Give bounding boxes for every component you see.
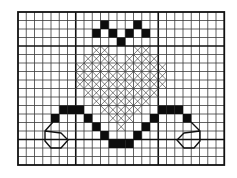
solid-stitch-cell <box>59 106 67 115</box>
solid-stitch-cell <box>150 114 158 123</box>
solid-stitch-cell <box>92 123 100 132</box>
solid-stitch-cell <box>76 106 84 115</box>
solid-stitch-cell <box>117 38 125 47</box>
solid-stitch-cell <box>175 106 183 115</box>
solid-stitch-cell <box>101 131 109 140</box>
solid-stitch-cell <box>134 21 142 30</box>
solid-stitch-cell <box>158 106 166 115</box>
solid-stitch-cell <box>109 29 117 38</box>
solid-stitch-cell <box>125 29 133 38</box>
solid-stitch-cell <box>68 106 76 115</box>
cross-stitch-chart <box>0 0 237 178</box>
solid-stitch-cell <box>84 114 92 123</box>
solid-stitch-cell <box>125 140 133 149</box>
solid-stitch-cell <box>142 123 150 132</box>
solid-stitch-cell <box>51 114 59 123</box>
background <box>0 0 237 178</box>
solid-stitch-cell <box>167 106 175 115</box>
solid-stitch-cell <box>142 29 150 38</box>
solid-stitch-cell <box>109 140 117 149</box>
solid-stitch-cell <box>183 114 191 123</box>
solid-stitch-cell <box>101 21 109 30</box>
solid-stitch-cell <box>117 140 125 149</box>
solid-stitch-cell <box>134 131 142 140</box>
solid-stitch-cell <box>92 29 100 38</box>
